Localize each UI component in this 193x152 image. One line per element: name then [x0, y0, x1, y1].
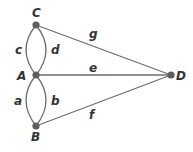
node-label-D: D — [176, 69, 186, 83]
node-C — [32, 21, 39, 28]
node-B — [32, 122, 39, 129]
graph-diagram: C A B D c d a b g e f — [0, 0, 193, 152]
edge-a — [26, 75, 36, 126]
node-D — [167, 71, 174, 78]
edge-label-g: g — [89, 27, 98, 41]
edge-label-b: b — [51, 94, 60, 108]
edge-b — [36, 75, 46, 126]
edge-label-e: e — [89, 61, 97, 75]
node-label-C: C — [32, 6, 41, 20]
edge-c — [26, 25, 36, 75]
edge-label-f: f — [89, 108, 96, 122]
node-label-B: B — [31, 130, 40, 144]
edge-label-a: a — [14, 94, 22, 108]
node-A — [32, 71, 39, 78]
edge-label-c: c — [15, 43, 22, 57]
edge-d — [36, 25, 46, 75]
edge-label-d: d — [51, 43, 60, 57]
node-label-A: A — [16, 69, 26, 83]
